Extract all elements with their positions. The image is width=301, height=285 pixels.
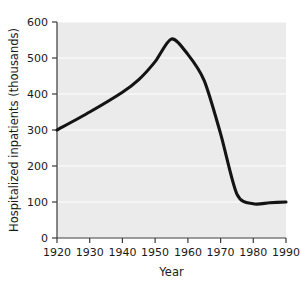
y-tick-label-400: 400 — [27, 88, 48, 101]
x-tick-label-1930: 1930 — [76, 246, 104, 259]
y-tick-label-100: 100 — [27, 196, 48, 209]
x-tick-label-1980: 1980 — [239, 246, 267, 259]
x-tick-label-1920: 1920 — [43, 246, 71, 259]
y-tick-label-0: 0 — [41, 232, 48, 245]
chart-figure: 0 100 200 300 400 500 600 1920 1930 1940… — [0, 0, 301, 285]
y-tick-label-200: 200 — [27, 160, 48, 173]
line-chart: 0 100 200 300 400 500 600 1920 1930 1940… — [0, 0, 301, 285]
x-tick-label-1990: 1990 — [272, 246, 300, 259]
x-tick-label-1960: 1960 — [174, 246, 202, 259]
y-axis-title: Hospitalized inpatients (thousands) — [7, 28, 21, 232]
x-tick-label-1940: 1940 — [108, 246, 136, 259]
y-tick-label-300: 300 — [27, 124, 48, 137]
x-tick-label-1970: 1970 — [207, 246, 235, 259]
x-tick-label-1950: 1950 — [141, 246, 169, 259]
x-axis-title: Year — [158, 265, 184, 279]
y-tick-label-500: 500 — [27, 52, 48, 65]
y-tick-label-600: 600 — [27, 16, 48, 29]
